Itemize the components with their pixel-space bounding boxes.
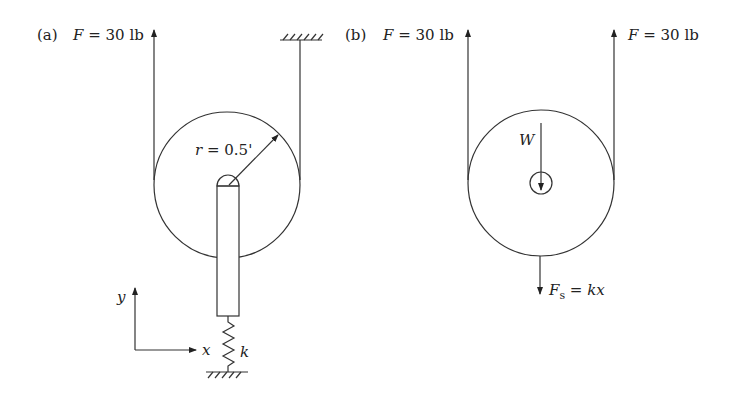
spring-icon [223, 316, 234, 372]
panel-b: (b) F = 30 lb F = 30 lb W Fs = kx [345, 26, 699, 302]
spring-label: k [240, 343, 249, 361]
ground-support-icon [206, 372, 248, 378]
diagram-canvas: (a) F = 30 lb r = 0.5' k [0, 0, 735, 395]
panel-a-label: (a) [37, 26, 58, 44]
panel-a: (a) F = 30 lb r = 0.5' k [37, 26, 323, 378]
weight-label: W [519, 131, 536, 149]
x-axis-label: x [202, 341, 211, 359]
ceiling-support-icon [280, 34, 323, 40]
radius-label: r = 0.5' [195, 141, 252, 159]
spring-force-label: Fs = kx [548, 281, 605, 302]
force-label-a: F = 30 lb [72, 26, 144, 44]
pin-joint [217, 175, 239, 186]
y-axis-label: y [116, 288, 126, 306]
panel-b-label: (b) [345, 26, 366, 44]
force-right-label-b: F = 30 lb [627, 26, 699, 44]
force-left-label-b: F = 30 lb [382, 26, 454, 44]
